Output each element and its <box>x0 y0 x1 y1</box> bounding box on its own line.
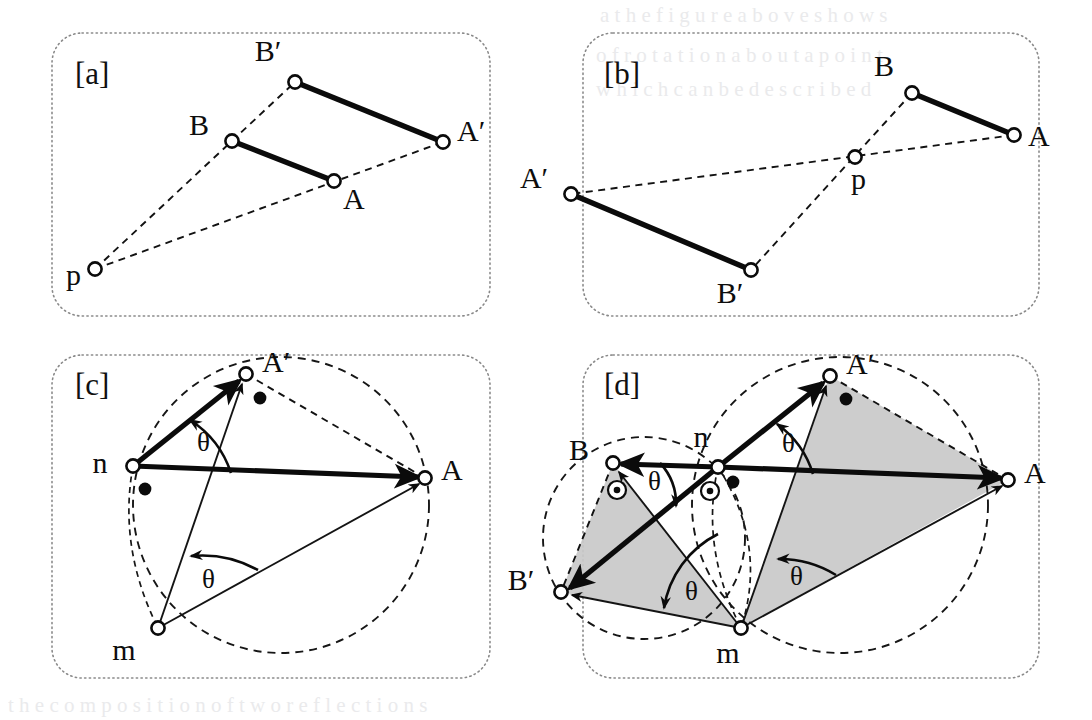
panel-d-theta-label-n-left: θ <box>648 466 661 496</box>
panel-d-node-m <box>734 621 747 634</box>
panel-c-node-A <box>418 471 431 484</box>
panel-a-label-B: B <box>189 108 209 141</box>
panel-c-frame <box>52 355 490 678</box>
panel-a-label-p: p <box>66 258 81 291</box>
panel-d-label-n: n <box>694 420 709 453</box>
panel-a-tag: [a] <box>75 56 109 91</box>
panel-a-segment-BA <box>232 141 334 181</box>
panel-d-orientation-dot-lower <box>727 476 740 489</box>
panel-a-node-p <box>88 262 101 275</box>
panel-b-tag: [b] <box>604 56 640 91</box>
panel-a-label-Aprime: A′ <box>457 114 485 147</box>
panel-a-label-A: A <box>343 182 365 215</box>
panel-c-vector-m-Aprime <box>158 384 242 628</box>
panel-c-chord-Aprime-A <box>246 374 425 478</box>
panel-c-theta-label-n: θ <box>197 427 210 457</box>
panel-b-segment-AprimeBprime <box>571 194 751 270</box>
panel-d-label-B: B <box>569 433 589 466</box>
panel-c-node-Aprime <box>239 367 252 380</box>
panel-a-label-Bprime: B′ <box>255 34 282 67</box>
panel-b-frame <box>583 33 1039 316</box>
panel-a-node-A <box>327 174 340 187</box>
panel-c: [c] A′ n A m θ θ <box>52 345 490 678</box>
panel-b-label-B: B <box>874 49 894 82</box>
panel-c-node-n <box>126 459 139 472</box>
panel-d-theta-label-n-right: θ <box>782 428 795 458</box>
panel-b-label-Aprime: A′ <box>520 161 548 194</box>
geometry-figure-canvas: a t h e f i g u r e a b o v e s h o w s … <box>0 0 1092 720</box>
panel-a: [a] B′ B A′ A p <box>52 33 490 316</box>
panel-c-label-A: A <box>441 453 463 486</box>
panel-d-label-m: m <box>716 636 739 669</box>
panel-d-node-B <box>606 456 619 469</box>
panel-c-node-m <box>151 621 164 634</box>
panel-a-node-Bprime <box>288 75 301 88</box>
panel-d-node-n <box>711 460 724 473</box>
panel-a-segment-BprimeAprime <box>295 82 443 142</box>
panel-d-node-A <box>1001 473 1014 486</box>
panel-b-segment-BA <box>912 93 1014 135</box>
panel-c-vector-n-A <box>133 466 418 477</box>
panel-d-label-Bprime: B′ <box>508 563 535 596</box>
panel-d-vector-n-B <box>621 464 718 467</box>
panel-c-orientation-dot-upper <box>254 392 267 405</box>
panel-c-label-m: m <box>112 633 135 666</box>
ghost-line: a t h e f i g u r e a b o v e s h o w s <box>600 3 888 27</box>
figure-root: a t h e f i g u r e a b o v e s h o w s … <box>0 0 1092 720</box>
panel-d-node-Bprime <box>554 585 567 598</box>
panel-c-theta-label-m: θ <box>202 564 215 594</box>
panel-d-theta-label-m-right: θ <box>790 561 803 591</box>
panel-b-node-A <box>1007 128 1020 141</box>
panel-a-node-B <box>225 134 238 147</box>
panel-c-circumcircle <box>133 357 429 653</box>
panel-d-theta-label-m-left: θ <box>685 576 698 606</box>
panel-c-label-Aprime: A′ <box>262 345 290 378</box>
panel-d-ring-dot-center <box>701 482 719 500</box>
panel-d-label-A: A <box>1024 456 1046 489</box>
panel-c-orientation-dot-lower <box>139 483 152 496</box>
panel-a-node-Aprime <box>436 135 449 148</box>
panel-c-label-n: n <box>93 446 108 479</box>
panel-c-tag: [c] <box>75 367 109 402</box>
panel-b-node-Aprime <box>564 187 577 200</box>
panel-d-orientation-dot-upper <box>840 393 853 406</box>
panel-d-node-Aprime <box>823 369 836 382</box>
panel-d-label-Aprime: A′ <box>846 347 874 380</box>
panel-d: [d] <box>508 347 1046 678</box>
panel-b-line-B-Bprime <box>751 93 912 270</box>
panel-d-tag: [d] <box>604 367 640 402</box>
panel-b: [b] B A p A′ B′ <box>520 33 1050 316</box>
panel-d-ring-dot-left <box>608 481 626 499</box>
panel-b-node-B <box>905 86 918 99</box>
panel-d-angle-arc-n-left <box>660 463 676 506</box>
panel-b-node-Bprime <box>744 263 757 276</box>
panel-a-ray-p-Aprime <box>95 142 443 269</box>
ghost-line: t h e c o m p o s i t i o n o f t w o r … <box>8 693 427 717</box>
panel-a-frame <box>52 33 490 316</box>
panel-b-label-p: p <box>851 162 866 195</box>
panel-b-line-A-Aprime <box>571 135 1014 194</box>
panel-b-label-A: A <box>1028 119 1050 152</box>
panel-b-label-Bprime: B′ <box>717 276 744 309</box>
